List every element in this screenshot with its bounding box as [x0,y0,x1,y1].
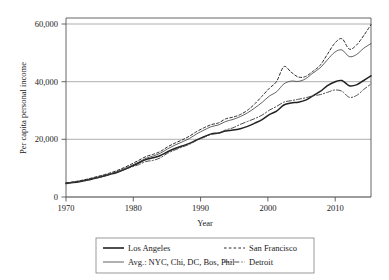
x-tick-label-2: 1990 [192,203,209,213]
series-line-avg-cities [66,44,371,183]
y-axis-title: Per capita personal income [18,62,28,154]
x-tick-label-3: 2000 [259,203,276,213]
data-series-group [66,25,371,184]
series-line-detroit [66,84,371,183]
x-tick-labels: 1970 1980 1990 2000 2010 [58,203,344,213]
axis-spines [66,18,371,197]
chart-figure: 0 20,000 40,000 60,000 1970 1980 1990 20… [0,0,389,280]
x-axis-title: Year [197,218,213,228]
x-tick-label-4: 2010 [327,203,344,213]
x-tick-label-1: 1980 [125,203,142,213]
y-axis-ticks [62,24,67,197]
x-axis-ticks [66,197,335,202]
y-tick-labels: 0 20,000 40,000 60,000 [35,19,58,202]
legend-label-avg-cities: Avg.: NYC, Chi, DC, Bos, Phil [128,257,235,267]
y-tick-label-1: 20,000 [35,134,58,144]
series-line-san-francisco [66,25,371,183]
series-line-los-angeles [66,76,371,184]
y-tick-label-0: 0 [54,192,58,202]
y-tick-label-3: 60,000 [35,19,58,29]
legend-label-los-angeles: Los Angeles [128,243,170,253]
legend-label-san-francisco: San Francisco [249,243,297,253]
grid-lines [66,24,371,197]
y-tick-label-2: 40,000 [35,77,58,87]
income-line-chart: 0 20,000 40,000 60,000 1970 1980 1990 20… [0,0,389,280]
x-tick-label-0: 1970 [58,203,75,213]
legend-label-detroit: Detroit [249,257,274,267]
chart-legend: Los Angeles Avg.: NYC, Chi, DC, Bos, Phi… [96,238,314,273]
